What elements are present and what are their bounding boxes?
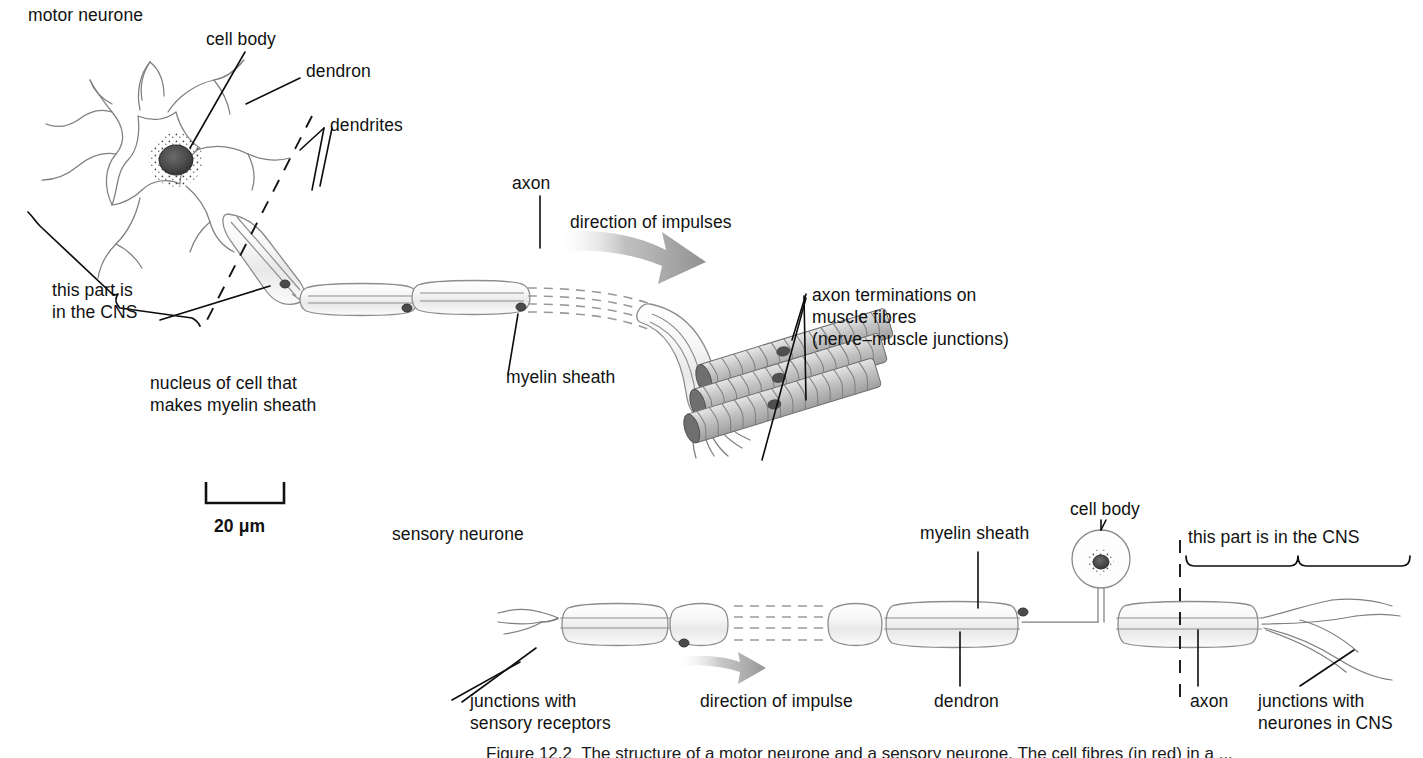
motor-neurone-title: motor neurone [28, 4, 143, 26]
label-motor-cns-line1: this part is [52, 279, 133, 301]
direction-of-impulse-arrow [676, 652, 766, 684]
label-sensory-axon: axon [1190, 690, 1228, 712]
label-sensory-dendron: dendron [934, 690, 999, 712]
label-motor-dendron: dendron [306, 60, 371, 82]
label-sensory-myelin-sheath: myelin sheath [920, 522, 1029, 544]
figure-caption: Figure 12.2 The structure of a motor neu… [486, 744, 1416, 758]
label-axon-terminations-line3: (nerve–muscle junctions) [812, 328, 1009, 350]
direction-of-impulses-arrow [560, 231, 706, 284]
label-sensory-cns: this part is in the CNS [1188, 526, 1360, 548]
label-myelin-nucleus-line2: makes myelin sheath [150, 394, 316, 416]
label-axon-terminations-line2: muscle fibres [812, 306, 916, 328]
sensory-neurone-group [498, 530, 1400, 680]
cell-body-nucleus [159, 145, 193, 175]
sensory-cell-body-nucleus [1093, 555, 1109, 569]
label-motor-axon: axon [512, 172, 550, 194]
label-junctions-sensory-line2: sensory receptors [470, 712, 611, 734]
label-axon-terminations-line1: axon terminations on [812, 284, 976, 306]
scale-bar-label: 20 μm [214, 515, 265, 537]
label-junctions-sensory-line1: junctions with [470, 690, 576, 712]
label-sensory-cell-body: cell body [1070, 498, 1140, 520]
sensory-neurone-title: sensory neurone [392, 523, 524, 545]
label-motor-cell-body: cell body [206, 28, 276, 50]
sensory-cns-brace [1186, 556, 1410, 566]
label-junctions-cns-line2: neurones in CNS [1258, 712, 1393, 734]
label-direction-of-impulse: direction of impulse [700, 690, 853, 712]
label-direction-of-impulses: direction of impulses [570, 211, 732, 233]
label-junctions-cns-line1: junctions with [1258, 690, 1364, 712]
figure-canvas: motor neurone cell body dendron dendrite… [0, 0, 1423, 758]
scale-bar [206, 482, 284, 503]
label-motor-dendrites: dendrites [330, 114, 403, 136]
label-myelin-nucleus-line1: nucleus of cell that [150, 372, 297, 394]
label-motor-cns-line2: in the CNS [52, 301, 138, 323]
label-motor-myelin-sheath: myelin sheath [506, 366, 615, 388]
